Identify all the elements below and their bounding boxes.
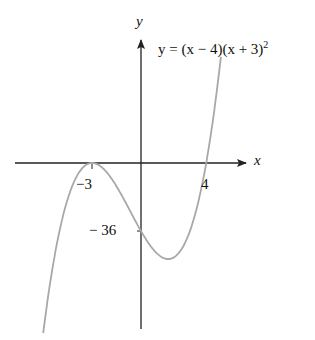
equation-label: y = (x − 4)(x + 3)2 [158,40,268,57]
tick-label-neg3: −3 [76,177,92,192]
tick-label-neg36: − 36 [89,223,116,238]
cubic-curve [43,57,221,333]
equation-text: y = (x − 4)(x + 3) [158,41,263,57]
equation-exponent: 2 [263,39,268,50]
y-axis-label: y [136,14,143,29]
x-axis-label: x [254,153,261,168]
graph-figure: y x y = (x − 4)(x + 3)2 −3 4 − 36 [0,0,315,340]
tick-label-4: 4 [201,177,209,192]
